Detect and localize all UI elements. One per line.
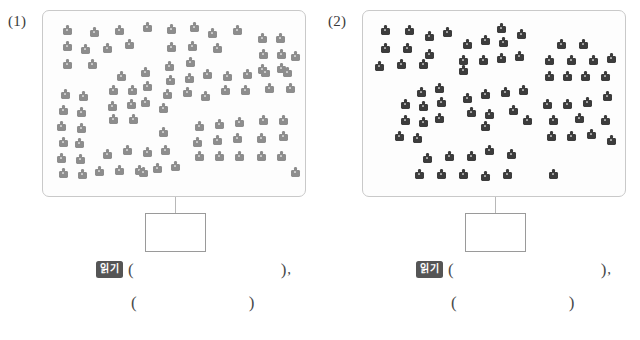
- person-icon: [405, 25, 414, 35]
- person-icon: [77, 107, 86, 117]
- person-icon: [213, 43, 222, 53]
- person-icon: [499, 37, 508, 47]
- answer-row-second-1: ( ): [131, 291, 254, 313]
- person-icon: [543, 99, 552, 109]
- person-icon: [63, 59, 72, 69]
- person-icon: [141, 67, 150, 77]
- person-icon: [583, 97, 592, 107]
- person-icon: [435, 83, 444, 93]
- subject-badge-reading-2: 읽기: [416, 261, 443, 278]
- person-icon: [125, 39, 134, 49]
- answer-box-1[interactable]: [145, 213, 206, 252]
- person-icon: [128, 85, 137, 95]
- person-icon: [235, 151, 244, 161]
- person-icon: [291, 51, 300, 61]
- person-icon: [291, 167, 300, 177]
- person-icon: [79, 91, 88, 101]
- person-icon: [161, 145, 170, 155]
- open-paren-1b: (: [131, 294, 137, 311]
- person-icon: [415, 169, 424, 179]
- person-icon: [153, 163, 162, 173]
- person-icon: [607, 53, 616, 63]
- exercise-index-label-2: (2): [328, 13, 346, 30]
- person-icon: [115, 25, 124, 35]
- person-icon: [258, 33, 267, 43]
- person-icon: [283, 67, 292, 77]
- close-paren-2b: ): [569, 294, 575, 311]
- person-icon: [61, 89, 70, 99]
- close-paren-2a: ): [601, 261, 607, 278]
- person-icon: [481, 121, 490, 131]
- person-icon: [286, 83, 295, 93]
- open-paren-2a: (: [448, 261, 454, 278]
- person-icon: [437, 97, 446, 107]
- close-paren-1b: ): [249, 294, 255, 311]
- person-icon: [467, 107, 476, 117]
- person-icon: [463, 39, 472, 49]
- person-icon: [517, 29, 526, 39]
- person-icon: [171, 161, 180, 171]
- person-icon: [567, 131, 576, 141]
- person-icon: [183, 87, 192, 97]
- person-icon: [257, 133, 266, 143]
- person-icon: [581, 71, 590, 81]
- person-icon: [485, 145, 494, 155]
- person-icon: [215, 151, 224, 161]
- person-icon: [463, 93, 472, 103]
- person-icon: [277, 151, 286, 161]
- person-icon: [190, 22, 199, 32]
- person-icon: [443, 27, 452, 37]
- person-icon: [437, 169, 446, 179]
- person-icon: [265, 83, 274, 93]
- answer-row-second-2: ( ): [451, 291, 574, 313]
- person-icon: [587, 129, 596, 139]
- person-icon: [188, 41, 197, 51]
- person-icon: [375, 61, 384, 71]
- person-icon: [123, 145, 132, 155]
- person-icon: [95, 166, 104, 176]
- person-icon: [159, 103, 168, 113]
- exercise-index-label-1: (1): [8, 13, 26, 30]
- person-icon: [109, 85, 118, 95]
- person-icon: [419, 101, 428, 111]
- person-icon: [501, 87, 510, 97]
- person-icon: [607, 135, 616, 145]
- person-icon: [519, 85, 528, 95]
- person-icon: [549, 115, 558, 125]
- person-icon: [59, 137, 68, 147]
- person-icon: [467, 151, 476, 161]
- person-icon: [481, 89, 490, 99]
- person-icon: [523, 115, 532, 125]
- panel-to-box-connector-2: [495, 197, 496, 214]
- comma-2a: ,: [607, 261, 611, 278]
- person-icon: [90, 27, 99, 37]
- person-icon: [507, 149, 516, 159]
- person-icon: [419, 117, 428, 127]
- person-icon: [479, 55, 488, 65]
- person-icon: [243, 69, 252, 79]
- exercise-group-1: (1) 읽기 ( ) , ( ): [0, 0, 320, 340]
- person-icon: [143, 22, 152, 32]
- person-icon: [193, 137, 202, 147]
- person-icon: [165, 61, 174, 71]
- person-icon: [129, 114, 138, 124]
- person-icon: [257, 151, 266, 161]
- person-icon: [509, 105, 518, 115]
- person-icon: [435, 113, 444, 123]
- person-icon: [419, 59, 428, 69]
- person-icon: [115, 165, 124, 175]
- answer-box-2[interactable]: [465, 213, 526, 252]
- person-icon: [589, 55, 598, 65]
- person-icon: [163, 89, 172, 99]
- person-icon: [563, 71, 572, 81]
- person-icon: [186, 57, 195, 67]
- person-icon: [201, 91, 210, 101]
- person-icon: [503, 169, 512, 179]
- person-icon: [485, 109, 494, 119]
- person-icon: [63, 25, 72, 35]
- person-icon: [445, 151, 454, 161]
- person-icon: [63, 41, 72, 51]
- person-icon: [213, 135, 222, 145]
- person-icon: [401, 99, 410, 109]
- person-icon: [208, 28, 217, 38]
